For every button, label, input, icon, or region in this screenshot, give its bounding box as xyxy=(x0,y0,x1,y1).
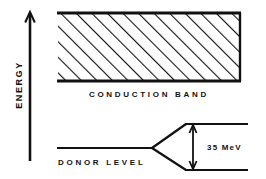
donor-split-branch-lower xyxy=(152,148,186,170)
donor-level-label: DONOR LEVEL xyxy=(58,158,145,167)
energy-axis-label: ENERGY xyxy=(14,25,28,145)
conduction-band-region xyxy=(57,13,241,81)
conduction-band-hatch xyxy=(58,13,240,81)
conduction-band-label: CONDUCTION BAND xyxy=(58,90,240,99)
donor-split-branch-upper xyxy=(152,124,186,148)
splitting-arrow xyxy=(189,125,196,169)
energy-band-diagram: ENERGY CONDUCTION BAND DONOR LEVEL 35 Me… xyxy=(0,0,266,179)
splitting-energy-label: 35 MeV xyxy=(207,143,242,152)
